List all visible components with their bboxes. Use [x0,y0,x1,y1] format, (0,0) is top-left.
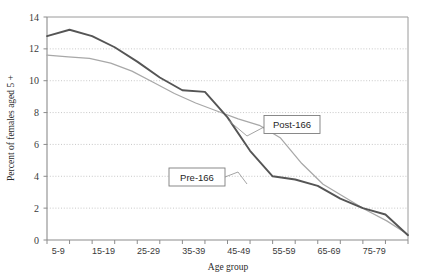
x-axis-title: Age group [208,262,249,272]
chart-screenshot: 14 12 10 8 6 4 2 0 [0,0,424,276]
y-tick-label: 10 [29,75,39,86]
y-tick-label: 12 [29,43,39,54]
x-tick-label: 25-29 [137,246,160,256]
x-tick-label: 75-79 [363,246,386,256]
y-axis-title: Percent of females aged 5 + [6,75,16,181]
callout-post-166[interactable]: Post-166 [264,116,320,134]
y-tick-label: 2 [34,203,39,214]
chart-canvas: 14 12 10 8 6 4 2 0 [0,0,424,276]
x-tick-label: 5-9 [52,246,65,256]
x-axis-tick-labels: 5-9 15-19 25-29 35-39 45-49 55-59 65-69 … [52,246,386,256]
line-chart: 14 12 10 8 6 4 2 0 [0,0,424,276]
y-axis-tick-labels: 14 12 10 8 6 4 2 0 [29,12,39,246]
x-tick-label: 65-69 [317,246,340,256]
y-tick-label: 8 [34,107,39,118]
callout-label-pre-166: Pre-166 [180,172,214,183]
y-tick-label: 6 [34,139,39,150]
callout-label-post-166: Post-166 [273,119,311,130]
y-tick-label: 4 [34,171,39,182]
x-tick-label: 35-39 [182,246,205,256]
plot-area-background [47,17,408,240]
y-tick-label: 14 [29,12,39,23]
y-tick-label: 0 [34,235,39,246]
x-tick-label: 15-19 [92,246,115,256]
x-tick-label: 55-59 [272,246,295,256]
callout-pre-166[interactable]: Pre-166 [169,168,225,186]
x-axis-ticks [47,240,408,244]
x-tick-label: 45-49 [227,246,250,256]
